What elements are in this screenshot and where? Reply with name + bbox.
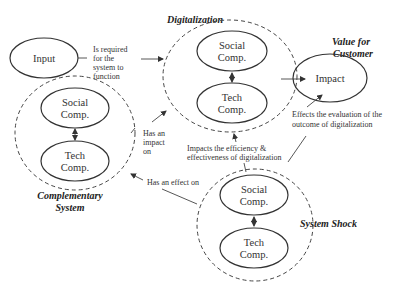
svg-text:Has an: Has an	[143, 129, 165, 138]
input-label: Input	[33, 53, 55, 64]
svg-text:System: System	[56, 202, 85, 213]
system-shock-social-comp: Social Comp.	[220, 175, 288, 215]
svg-text:Effects the evaluation of the: Effects the evaluation of the	[292, 110, 382, 119]
svg-text:Value for: Value for	[332, 36, 370, 47]
digitalization-system: Digitalization Social Comp. Tech Comp.	[163, 14, 297, 132]
has-impact-connector	[131, 128, 135, 133]
svg-text:effectiveness of digitalizatio: effectiveness of digitalization	[187, 153, 281, 162]
svg-text:Comp.: Comp.	[240, 249, 268, 260]
complementary-system: Social Comp. Tech Comp. Complementary Sy…	[15, 76, 135, 213]
svg-text:Tech: Tech	[244, 237, 265, 248]
impacts-efficiency-connector	[244, 163, 246, 172]
diagram-canvas: Input Is required for the system to func…	[0, 0, 393, 289]
svg-text:Social: Social	[62, 97, 88, 108]
svg-text:Impacts the efficiency &: Impacts the efficiency &	[187, 144, 267, 153]
svg-text:outcome of digitalization: outcome of digitalization	[292, 120, 372, 129]
effects-connector	[288, 136, 306, 162]
svg-text:Is required: Is required	[93, 45, 127, 54]
complementary-tech-comp: Tech Comp.	[41, 141, 109, 181]
svg-text:system to: system to	[93, 63, 123, 72]
svg-text:Comp.: Comp.	[218, 52, 246, 63]
digitalization-title: Digitalization	[166, 14, 224, 25]
svg-text:Comp.: Comp.	[218, 104, 246, 115]
svg-text:Tech: Tech	[65, 150, 86, 161]
svg-text:Comp.: Comp.	[61, 162, 89, 173]
svg-text:Complementary: Complementary	[37, 190, 103, 201]
digitalization-social-comp: Social Comp.	[197, 31, 267, 71]
system-shock: Social Comp. Tech Comp. System Shock	[197, 169, 357, 281]
input-node: Input	[10, 38, 78, 78]
impact-label: Impact	[315, 73, 344, 84]
svg-text:Comp.: Comp.	[61, 109, 89, 120]
input-edge-label: Is required for the system to function	[93, 45, 127, 81]
svg-text:on: on	[143, 147, 151, 156]
impacts-efficiency-label: Impacts the efficiency & effectiveness o…	[187, 144, 281, 162]
svg-text:for the: for the	[93, 54, 115, 63]
svg-text:Customer: Customer	[333, 48, 373, 59]
effects-label: Effects the evaluation of the outcome of…	[292, 110, 382, 129]
svg-text:Tech: Tech	[222, 92, 243, 103]
has-impact-arrow	[152, 111, 166, 122]
svg-text:impact: impact	[143, 138, 166, 147]
svg-text:Comp.: Comp.	[240, 196, 268, 207]
value-for-customer: Value for Customer Impact	[293, 36, 373, 102]
has-effect-connector	[162, 189, 197, 204]
svg-text:Social: Social	[219, 40, 245, 51]
digitalization-tech-comp: Tech Comp.	[197, 83, 267, 123]
svg-text:Social: Social	[241, 184, 267, 195]
has-effect-label: Has an effect on	[147, 178, 199, 187]
impacts-efficiency-arrow	[234, 134, 236, 142]
has-impact-label: Has an impact on	[143, 129, 166, 156]
has-effect-arrow	[131, 174, 143, 180]
system-shock-title: System Shock	[300, 218, 357, 229]
system-shock-tech-comp: Tech Comp.	[220, 228, 288, 268]
complementary-social-comp: Social Comp.	[41, 88, 109, 128]
